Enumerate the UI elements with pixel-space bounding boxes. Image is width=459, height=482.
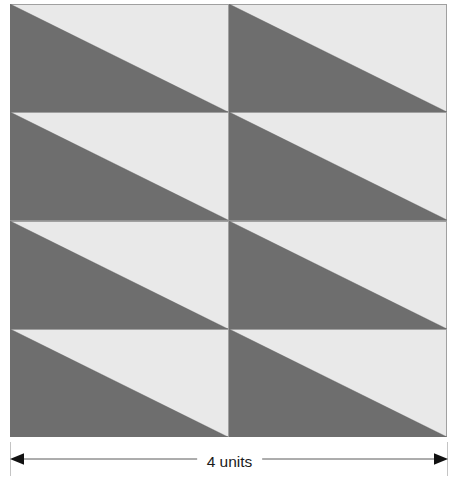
shaded-triangle-icon [10,112,229,220]
shaded-triangle-icon [229,112,448,220]
diagram-canvas: 4 units [0,0,459,482]
shaded-triangle-icon [10,4,229,112]
grid-cell-r1c2 [229,4,448,112]
grid-cell-r2c2 [229,112,448,220]
tiled-square-figure [10,4,447,437]
grid-cell-r4c2 [229,329,448,437]
dimension-label: 4 units [197,453,263,471]
grid-cell-r1c1 [10,4,229,112]
grid-cell-r3c2 [229,221,448,329]
shaded-triangle-icon [10,221,229,329]
grid-cell-r4c1 [10,329,229,437]
grid-cell-r2c1 [10,112,229,220]
dimension-annotation: 4 units [0,440,459,482]
shaded-triangle-icon [10,329,229,437]
rectangle-grid [10,4,447,437]
shaded-triangle-icon [229,329,448,437]
shaded-triangle-icon [229,4,448,112]
grid-cell-r3c1 [10,221,229,329]
shaded-triangle-icon [229,221,448,329]
